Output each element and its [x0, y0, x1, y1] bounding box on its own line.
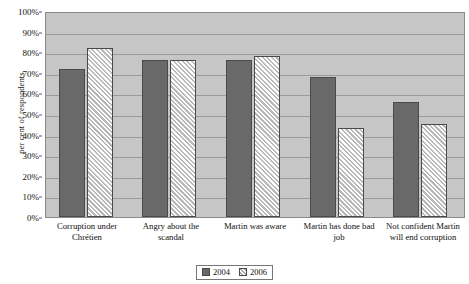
legend-item-2004: 2004 — [202, 267, 230, 277]
bar-2006 — [338, 128, 364, 217]
y-axis-tick-label: 40% — [23, 131, 40, 141]
y-axis-tick-mark — [39, 156, 42, 157]
bar-2004 — [310, 77, 336, 217]
bar-2006 — [87, 48, 113, 217]
bar-group — [213, 13, 297, 217]
y-axis-tick-mark — [39, 197, 42, 198]
bar-group — [46, 13, 130, 217]
x-axis-category-label: Martin was aware — [213, 221, 297, 242]
bar-2004 — [393, 102, 419, 217]
hatched-square-swatch-icon — [239, 268, 247, 276]
bar-2004 — [142, 60, 168, 217]
x-axis-category-label: Martin has done bad job — [297, 221, 381, 242]
y-axis-tick-mark — [39, 12, 42, 13]
y-axis-tick-mark — [39, 135, 42, 136]
y-axis-tick-label: 30% — [23, 151, 40, 161]
solid-dark-square-swatch-icon — [202, 268, 210, 276]
bar-2006 — [421, 124, 447, 217]
y-axis-tick-label: 80% — [23, 48, 40, 58]
y-axis-tick-mark — [39, 32, 42, 33]
bar-2006 — [254, 56, 280, 217]
y-axis-tick-mark — [39, 73, 42, 74]
y-axis-tick-label: 90% — [23, 28, 40, 38]
plot-area — [45, 12, 465, 218]
legend-item-2006: 2006 — [239, 267, 267, 277]
x-axis-category-label: Corruption under Chrétien — [45, 221, 129, 242]
x-axis-category-labels: Corruption under ChrétienAngry about the… — [45, 221, 465, 242]
y-axis-tick-label: 100% — [18, 7, 39, 17]
y-axis-tick-mark — [39, 176, 42, 177]
y-axis-tick-mark — [39, 94, 42, 95]
y-axis-tick-label: 10% — [23, 192, 40, 202]
y-axis-tick-mark — [39, 53, 42, 54]
bar-group — [297, 13, 381, 217]
bar-2004 — [226, 60, 252, 217]
bar-2006 — [170, 60, 196, 217]
chart-legend: 2004 2006 — [196, 265, 273, 280]
y-axis-tick-mark — [39, 218, 42, 219]
y-axis-tick-label: 70% — [23, 69, 40, 79]
y-axis-tick-label: 0% — [27, 213, 39, 223]
x-axis-category-label: Not confident Martin will end corruption — [381, 221, 465, 242]
legend-label-2006: 2006 — [250, 267, 267, 277]
y-axis-tick-mark — [39, 115, 42, 116]
x-axis-category-label: Angry about the scandal — [129, 221, 213, 242]
y-axis-tick-labels: 0%10%20%30%40%50%60%70%80%90%100% — [0, 12, 42, 218]
y-axis-tick-label: 20% — [23, 172, 40, 182]
bar-group — [380, 13, 464, 217]
y-axis-tick-label: 60% — [23, 89, 40, 99]
y-axis-tick-label: 50% — [23, 110, 40, 120]
bar-groups — [46, 13, 464, 217]
bar-group — [130, 13, 214, 217]
legend-label-2004: 2004 — [213, 267, 230, 277]
bar-2004 — [59, 69, 85, 217]
bar-chart: per cent of respondents 0%10%20%30%40%50… — [0, 0, 469, 284]
